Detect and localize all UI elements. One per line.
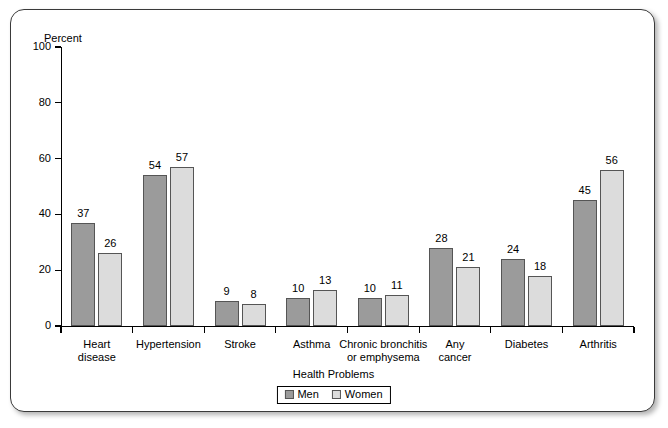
chart-frame: Percent 020406080100 3726545798101310112… — [10, 9, 655, 412]
category-label-line: cancer — [385, 351, 525, 364]
legend-item-women: Women — [332, 389, 383, 400]
bar-value-label: 56 — [592, 155, 632, 166]
y-tick-label: 40 — [17, 208, 51, 219]
bar-men — [215, 301, 239, 326]
chart-page: Percent 020406080100 3726545798101310112… — [0, 0, 668, 428]
bar-value-label: 37 — [63, 208, 103, 219]
bar-men — [286, 298, 310, 326]
category-label: Arthritis — [528, 338, 668, 351]
y-tick-label: 80 — [17, 97, 51, 108]
y-tick-mark — [55, 214, 61, 215]
legend-swatch-men — [284, 390, 293, 399]
bar-value-label: 11 — [377, 280, 417, 291]
chart-legend: MenWomen — [276, 386, 390, 404]
x-tick-mark — [275, 327, 276, 333]
x-tick-mark — [347, 327, 348, 333]
x-tick-mark — [633, 327, 634, 333]
category-label-line: disease — [27, 351, 167, 364]
bar-men — [573, 200, 597, 326]
bar-value-label: 57 — [162, 152, 202, 163]
y-tick-mark — [55, 158, 61, 159]
bar-value-label: 18 — [520, 261, 560, 272]
legend-label: Men — [297, 389, 318, 400]
bar-women — [313, 290, 337, 326]
bar-women — [98, 253, 122, 326]
bar-value-label: 26 — [90, 238, 130, 249]
x-tick-mark — [204, 327, 205, 333]
y-axis-line — [61, 47, 62, 326]
y-tick-label: 60 — [17, 153, 51, 164]
legend-item-men: Men — [284, 389, 318, 400]
y-tick-mark — [55, 46, 61, 47]
y-tick-label: 20 — [17, 264, 51, 275]
bar-women — [456, 267, 480, 326]
y-tick-mark — [55, 102, 61, 103]
bar-value-label: 8 — [234, 289, 274, 300]
plot-area: Percent 020406080100 3726545798101310112… — [11, 10, 656, 413]
bar-women — [528, 276, 552, 326]
x-tick-mark — [490, 327, 491, 333]
bar-women — [170, 167, 194, 326]
bar-men — [358, 298, 382, 326]
x-tick-mark — [562, 327, 563, 333]
y-tick-label: 0 — [17, 320, 51, 331]
category-label-line: Arthritis — [528, 338, 668, 351]
bar-women — [242, 304, 266, 326]
legend-label: Women — [345, 389, 383, 400]
y-tick-mark — [55, 270, 61, 271]
x-tick-mark — [60, 327, 61, 333]
x-tick-mark — [419, 327, 420, 333]
bar-women — [600, 170, 624, 326]
bar-value-label: 45 — [565, 185, 605, 196]
bar-value-label: 24 — [493, 244, 533, 255]
bar-women — [385, 295, 409, 326]
bar-value-label: 21 — [448, 252, 488, 263]
bar-value-label: 28 — [421, 233, 461, 244]
x-tick-mark — [132, 327, 133, 333]
legend-swatch-women — [332, 390, 341, 399]
x-axis-title: Health Problems — [11, 368, 656, 380]
bar-men — [143, 175, 167, 326]
y-tick-label: 100 — [17, 41, 51, 52]
bar-value-label: 13 — [305, 275, 345, 286]
